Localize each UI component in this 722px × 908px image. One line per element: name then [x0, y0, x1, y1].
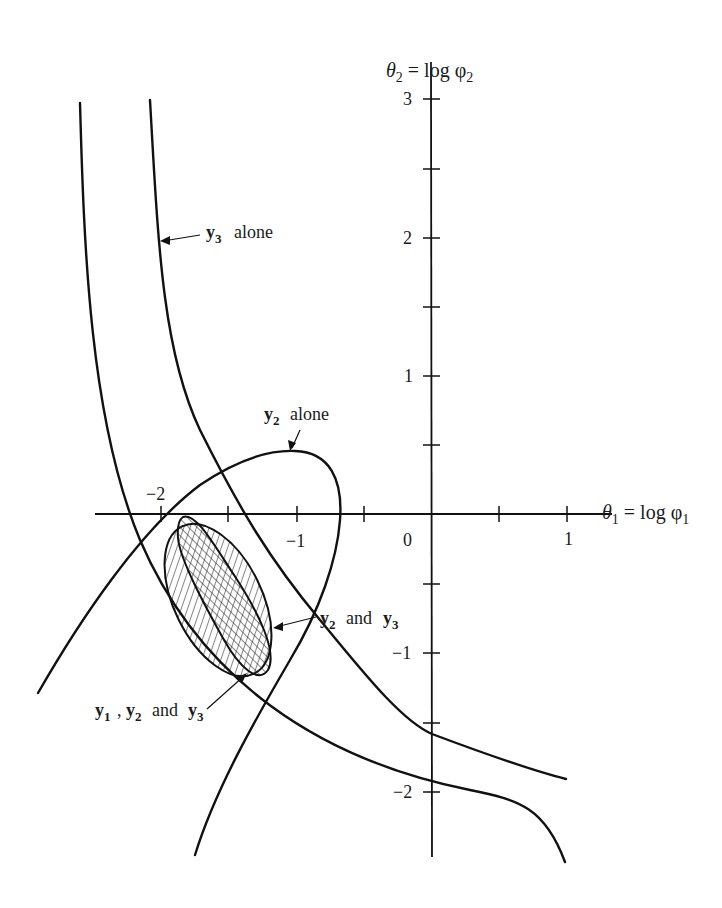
label-y1-y2-y3: y1 , y2 and y3 — [95, 700, 204, 724]
svg-text:,: , — [117, 700, 122, 720]
x-tick-label-0: 0 — [403, 530, 412, 550]
y-tick-label-3: 3 — [403, 89, 412, 109]
y-tick-label-1: 1 — [404, 366, 413, 386]
y-tick-label-neg1: −1 — [392, 643, 411, 663]
y2-boundary — [38, 451, 340, 855]
svg-text:and: and — [152, 700, 178, 720]
svg-text:y2: y2 — [264, 404, 280, 428]
svg-text:y1: y1 — [95, 700, 111, 724]
x-axis-label: θ1 = log φ1 — [602, 501, 689, 527]
svg-text:y3: y3 — [206, 222, 222, 246]
axes — [95, 62, 612, 857]
label-y3-alone: y3 alone — [206, 222, 273, 246]
x-tick-label-neg2: −2 — [146, 484, 165, 504]
y-axis-label: θ2 = log φ2 — [386, 59, 473, 85]
label-y2-alone: y2 alone — [264, 404, 329, 428]
svg-text:y2: y2 — [126, 700, 142, 724]
svg-text:alone: alone — [234, 222, 273, 242]
y3-boundary-outer — [80, 103, 565, 862]
svg-text:θ1 = log φ1: θ1 = log φ1 — [602, 501, 689, 527]
figure-canvas: θ2 = log φ2 θ1 = log φ1 −2 −1 0 1 3 2 1 … — [0, 0, 722, 908]
svg-text:y3: y3 — [383, 608, 399, 632]
y3-alone-curves — [80, 100, 566, 862]
y-axis — [431, 62, 432, 857]
svg-text:alone: alone — [290, 404, 329, 424]
svg-text:θ2 = log φ2: θ2 = log φ2 — [386, 59, 473, 85]
svg-text:y3: y3 — [188, 700, 204, 724]
y3-boundary-inner — [150, 100, 566, 779]
y-tick-label-neg2: −2 — [393, 782, 412, 802]
label-y2-and-y3: y2 and y3 — [320, 608, 399, 632]
y-tick-label-2: 2 — [403, 228, 412, 248]
y2-alone-curve — [38, 451, 340, 855]
x-tick-label-1: 1 — [564, 529, 573, 549]
x-tick-label-neg1: −1 — [286, 531, 305, 551]
svg-text:and: and — [346, 608, 372, 628]
tick-labels: −2 −1 0 1 3 2 1 −1 −2 — [146, 89, 573, 802]
